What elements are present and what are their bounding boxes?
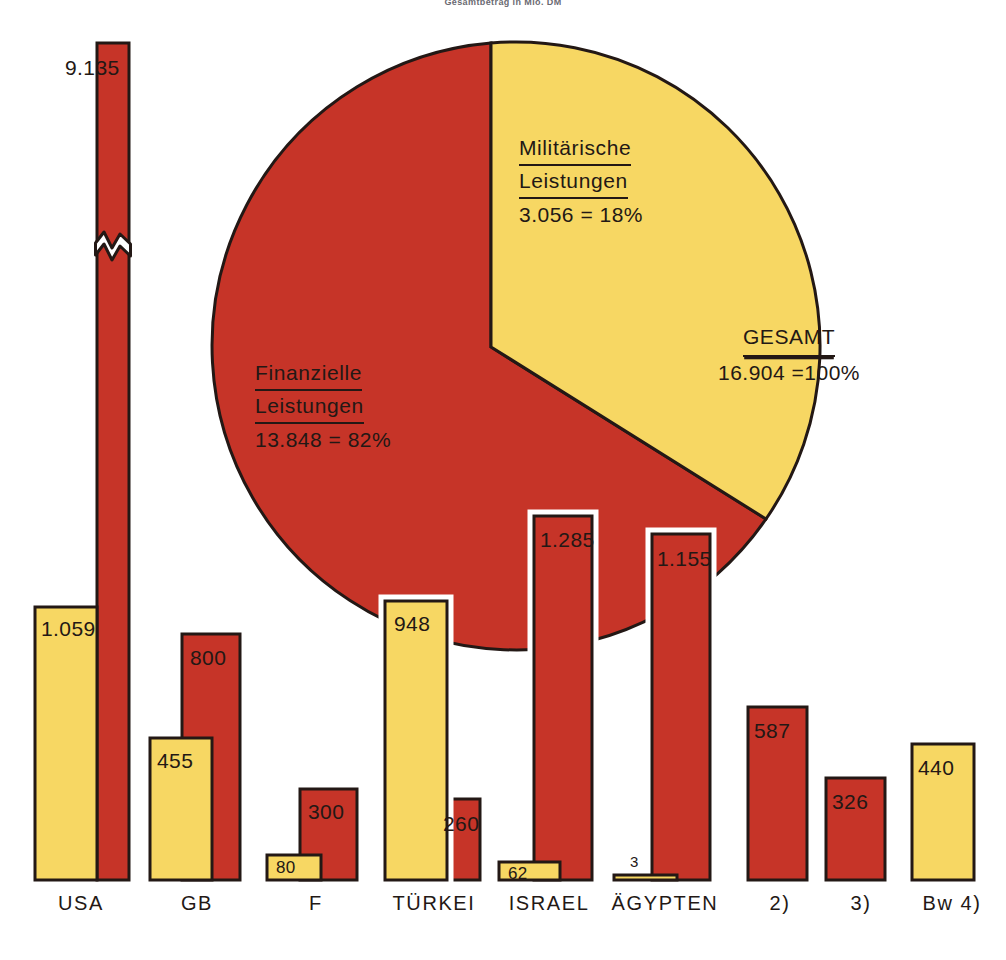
- bar-label-f-yellow: 80: [276, 858, 296, 878]
- pie-label-gesamt-text: GESAMT: [743, 322, 835, 357]
- category-label-israel: ISRAEL: [509, 892, 590, 915]
- pie-label-finanzielle: Finanzielle Leistungen 13.848 = 82%: [255, 358, 391, 455]
- pie-label-finanzielle-line2: Leistungen: [255, 391, 364, 424]
- category-label-f: F: [309, 892, 323, 915]
- bar-label-tuerkei-yellow: 948: [394, 612, 430, 636]
- pie-label-militaerische: Militärische Leistungen 3.056 = 18%: [519, 133, 643, 230]
- chart-figure: [0, 0, 1006, 960]
- category-label-bw4: Bw 4): [922, 892, 981, 915]
- category-label-aegypten: ÄGYPTEN: [612, 892, 719, 915]
- bar-tuerkei-yellow: [385, 601, 447, 880]
- bar-label-f-red: 300: [308, 800, 344, 824]
- pie-label-gesamt: GESAMT 16.904 =100%: [718, 322, 860, 388]
- bar-label-usa-red: 9.135: [65, 56, 120, 80]
- bar-label-2-red: 587: [754, 719, 790, 743]
- bar-label-tuerkei-red: 260: [443, 812, 479, 836]
- pie-value-gesamt: 16.904 =100%: [718, 357, 860, 389]
- bar-label-bw4-yellow: 440: [918, 756, 954, 780]
- category-label-tuerkei: TÜRKEI: [393, 892, 476, 915]
- bar-label-israel-yellow: 62: [508, 864, 528, 884]
- bar-label-gb-red: 800: [190, 646, 226, 670]
- pie-label-finanzielle-line1: Finanzielle: [255, 358, 362, 391]
- pie-label-militaerische-line2: Leistungen: [519, 166, 628, 199]
- bar-aegypten-red: [652, 534, 710, 880]
- bar-group-usa: [35, 43, 131, 880]
- category-label-usa: USA: [58, 892, 104, 915]
- bar-label-usa-yellow: 1.059: [41, 617, 96, 641]
- bar-usa-yellow: [35, 607, 97, 880]
- bar-label-aegypten-red: 1.155: [657, 547, 712, 571]
- bar-label-israel-red: 1.285: [540, 528, 595, 552]
- category-label-gb: GB: [181, 892, 213, 915]
- category-label-3: 3): [851, 892, 872, 915]
- category-label-2: 2): [770, 892, 791, 915]
- bar-usa-red: [97, 43, 129, 880]
- bar-aegypten-yellow: [614, 875, 677, 880]
- pie-label-militaerische-line1: Militärische: [519, 133, 631, 166]
- bar-label-gb-yellow: 455: [157, 749, 193, 773]
- bar-label-3-red: 326: [832, 790, 868, 814]
- pie-value-militaerische: 3.056 = 18%: [519, 199, 643, 231]
- bar-label-aegypten-yellow: 3: [630, 853, 639, 870]
- chart-canvas: Gesamtbetrag in Mio. DM: [0, 0, 1006, 960]
- bar-israel-red: [534, 516, 592, 880]
- pie-value-finanzielle: 13.848 = 82%: [255, 424, 391, 456]
